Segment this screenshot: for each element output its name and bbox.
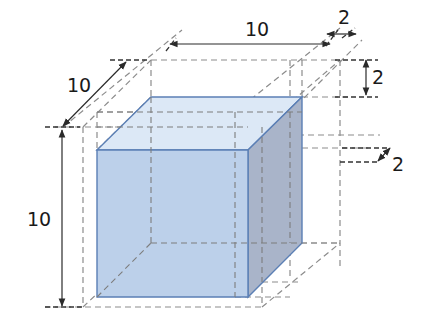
width-label: 10 [245, 20, 269, 39]
depth-label: 10 [67, 76, 91, 95]
height-label: 10 [27, 210, 51, 229]
width-extra-label: 2 [338, 8, 350, 27]
height-extra-label: 2 [372, 68, 384, 87]
depth-extra-dimension-line [378, 148, 390, 161]
diagram-canvas [0, 0, 427, 324]
depth-extra-label: 2 [392, 155, 404, 174]
cube-diagram: 10 2 2 2 10 10 [0, 0, 427, 324]
